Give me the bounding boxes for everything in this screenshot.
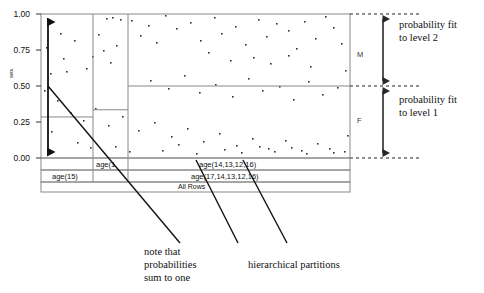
scatter-point	[150, 80, 152, 82]
scatter-point	[304, 21, 306, 23]
scatter-point	[306, 153, 308, 155]
row-level-2	[41, 158, 350, 170]
scatter-point	[262, 90, 264, 92]
y-axis-ticks	[36, 14, 41, 158]
scatter-point	[322, 94, 324, 96]
scatter-point	[245, 44, 247, 46]
scatter-point	[259, 146, 261, 148]
scatter-point	[57, 100, 59, 102]
scatter-point	[168, 88, 170, 90]
category-label-f: F	[357, 116, 362, 125]
scatter-point	[199, 92, 201, 94]
annotation-level-1-line-2: to level 1	[399, 106, 438, 119]
y-tick-3: 0.50	[0, 81, 30, 91]
scatter-point	[86, 68, 88, 70]
scatter-point	[122, 116, 124, 118]
caption-hierarchical-partitions: hierarchical partitions	[248, 258, 340, 271]
scatter-point	[165, 15, 167, 17]
partition-label-level1-1: age(17,14,13,12,16)	[191, 172, 259, 181]
scatter-point	[224, 149, 226, 151]
scatter-point	[291, 147, 293, 149]
scatter-point	[288, 55, 290, 57]
scatter-point	[51, 131, 53, 133]
annotation-level-2-line-1: probability fit	[399, 18, 457, 31]
scatter-point	[129, 151, 131, 153]
scatter-point	[232, 96, 234, 98]
y-tick-2: 0.75	[0, 45, 30, 55]
scatter-point	[215, 84, 217, 86]
scatter-point	[285, 140, 287, 142]
scatter-point	[176, 28, 178, 30]
category-label-m: M	[357, 50, 363, 59]
scatter-point	[252, 138, 254, 140]
scatter-point	[138, 130, 140, 132]
scatter-point	[337, 87, 339, 89]
scatter-point	[83, 120, 85, 122]
scatter-point	[230, 60, 232, 62]
scatter-point	[187, 128, 189, 130]
scatter-point	[156, 42, 158, 44]
scatter-point	[241, 152, 243, 154]
scatter-point	[108, 125, 110, 127]
annotation-level-1-line-1: probability fit	[399, 93, 457, 106]
annotation-level-2-line-2: to level 2	[399, 31, 438, 44]
scatter-point	[293, 99, 295, 101]
scatter-point	[214, 17, 216, 19]
scatter-point	[235, 26, 237, 28]
y-tick-1: 1.00	[0, 9, 30, 19]
figure-root: 1.00 0.75 0.50 0.25 0.00 sex M F probabi…	[0, 0, 484, 293]
scatter-point	[296, 48, 298, 50]
scatter-point	[258, 19, 260, 21]
scatter-point	[66, 71, 68, 73]
scatter-point	[347, 135, 349, 137]
scatter-point	[131, 20, 133, 22]
scatter-point	[154, 122, 156, 124]
partition-label-level2-0: age(1	[96, 160, 115, 169]
scatter-point	[341, 43, 343, 45]
scatter-point	[120, 19, 122, 21]
scatter-point	[112, 17, 114, 19]
scatter-point	[274, 151, 276, 153]
scatter-point	[344, 151, 346, 153]
scatter-point	[219, 133, 221, 135]
scatter-point	[200, 40, 202, 42]
scatter-point	[325, 16, 327, 18]
scatter-point	[50, 73, 52, 75]
scatter-point	[236, 145, 238, 147]
scatter-point	[268, 148, 270, 150]
y-tick-4: 0.25	[0, 117, 30, 127]
y-tick-5: 0.00	[0, 153, 30, 163]
partition-label-level1-0: age(15)	[52, 172, 78, 181]
scatter-point	[190, 22, 192, 24]
scatter-point	[301, 150, 303, 152]
scatter-point	[315, 38, 317, 40]
scatter-point	[310, 66, 312, 68]
scatter-point	[248, 78, 250, 80]
caption-note-line-1: note that	[144, 245, 180, 258]
scatter-point	[329, 148, 331, 150]
scatter-point	[221, 33, 223, 35]
scatter-point	[178, 144, 180, 146]
partition-label-all-rows: All Rows	[178, 183, 205, 190]
scatter-point	[63, 58, 65, 60]
scatter-point	[171, 136, 173, 138]
scatter-point	[333, 152, 335, 154]
scatter-point	[345, 70, 347, 72]
scatter-point	[74, 40, 76, 42]
caption-note-line-2: probabilities	[144, 258, 197, 271]
scatter-point	[98, 34, 100, 36]
scatter-point	[60, 33, 62, 35]
partition-label-level2-1: age(14,13,12,16)	[199, 160, 256, 169]
scatter-point	[140, 35, 142, 37]
scatter-point	[196, 153, 198, 155]
scatter-point	[90, 147, 92, 149]
scatter-point	[266, 36, 268, 38]
scatter-point	[115, 146, 117, 148]
scatter-point	[116, 45, 118, 47]
scatter-point	[110, 62, 112, 64]
scatter-point	[184, 75, 186, 77]
scatter-point	[162, 150, 164, 152]
scatter-point	[270, 63, 272, 65]
scatter-point	[77, 142, 79, 144]
scatter-point	[208, 52, 210, 54]
